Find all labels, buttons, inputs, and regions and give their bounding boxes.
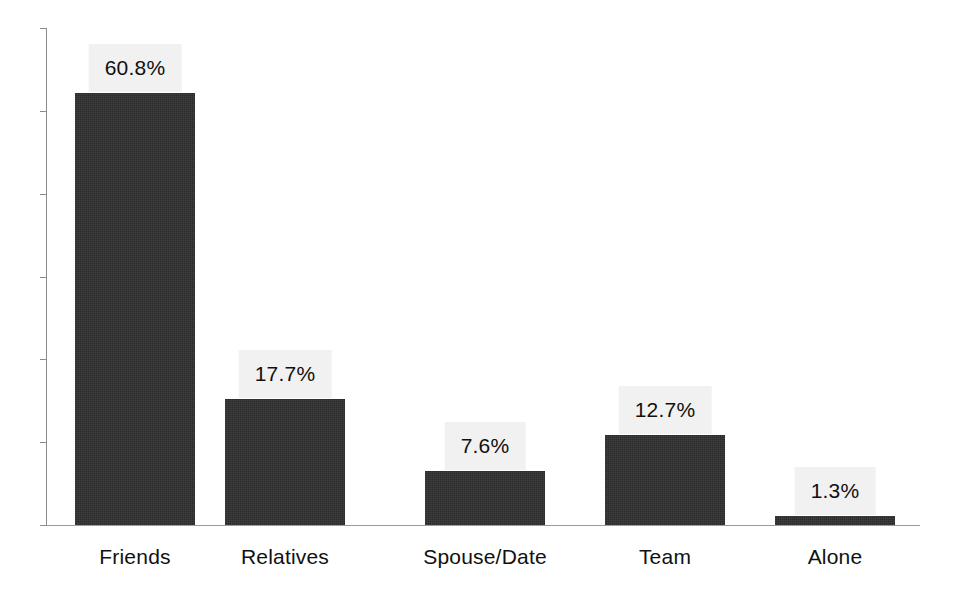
bar-group: 1.3% (775, 516, 895, 525)
bar-value-label: 12.7% (619, 386, 712, 434)
bar-value-label: 17.7% (239, 350, 332, 398)
bar (225, 399, 345, 525)
bar-value-label: 1.3% (795, 467, 876, 515)
bar-group: 17.7% (225, 399, 345, 525)
bar-chart: 60.8%17.7%7.6%12.7%1.3% FriendsRelatives… (0, 0, 963, 604)
bar (425, 471, 545, 525)
bar-value-label: 7.6% (445, 422, 526, 470)
x-axis-category-label: Team (583, 545, 748, 569)
x-axis-category-label: Spouse/Date (403, 545, 568, 569)
bar-value-label: 60.8% (89, 44, 182, 92)
bar (75, 93, 195, 525)
bar-group: 60.8% (75, 93, 195, 525)
plot-area: 60.8%17.7%7.6%12.7%1.3% (0, 0, 963, 604)
x-axis-category-label: Friends (53, 545, 218, 569)
bar (775, 516, 895, 525)
x-axis-category-label: Relatives (203, 545, 368, 569)
x-axis-category-label: Alone (753, 545, 918, 569)
bar-group: 12.7% (605, 435, 725, 525)
bar (605, 435, 725, 525)
bar-group: 7.6% (425, 471, 545, 525)
